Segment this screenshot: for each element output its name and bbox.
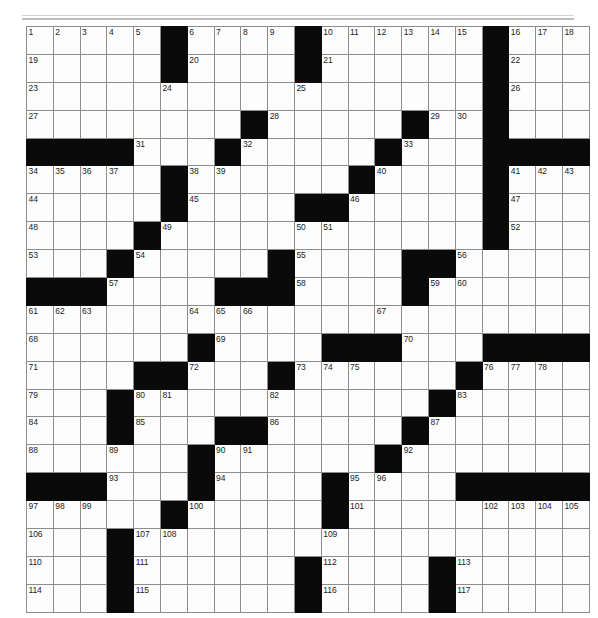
crossword-cell[interactable] [536,584,563,612]
crossword-cell[interactable] [294,445,321,473]
crossword-cell[interactable] [241,82,268,110]
crossword-cell[interactable] [53,110,80,138]
crossword-cell[interactable] [348,250,375,278]
crossword-cell[interactable] [160,138,187,166]
crossword-cell[interactable]: 76 [482,361,509,389]
crossword-cell[interactable] [80,529,107,557]
crossword-cell[interactable] [562,529,589,557]
crossword-cell[interactable]: 106 [27,529,54,557]
crossword-cell[interactable] [321,389,348,417]
crossword-cell[interactable] [482,529,509,557]
crossword-cell[interactable] [402,361,429,389]
crossword-cell[interactable] [536,529,563,557]
crossword-cell[interactable]: 53 [27,250,54,278]
crossword-cell[interactable] [160,110,187,138]
crossword-cell[interactable] [187,138,214,166]
crossword-cell[interactable] [536,250,563,278]
crossword-cell[interactable]: 22 [509,54,536,82]
crossword-cell[interactable] [562,389,589,417]
crossword-cell[interactable] [53,222,80,250]
crossword-cell[interactable]: 103 [509,501,536,529]
crossword-cell[interactable]: 61 [27,305,54,333]
crossword-cell[interactable] [187,584,214,612]
crossword-cell[interactable] [53,445,80,473]
crossword-cell[interactable] [402,222,429,250]
crossword-cell[interactable] [455,54,482,82]
crossword-cell[interactable] [53,584,80,612]
crossword-cell[interactable] [134,501,161,529]
crossword-cell[interactable] [241,556,268,584]
crossword-cell[interactable]: 23 [27,82,54,110]
crossword-cell[interactable] [187,529,214,557]
crossword-cell[interactable]: 60 [455,278,482,306]
crossword-cell[interactable]: 73 [294,361,321,389]
crossword-cell[interactable]: 31 [134,138,161,166]
crossword-cell[interactable] [455,305,482,333]
crossword-cell[interactable] [214,110,241,138]
crossword-cell[interactable] [536,82,563,110]
crossword-cell[interactable] [53,54,80,82]
crossword-cell[interactable] [134,305,161,333]
crossword-cell[interactable] [80,194,107,222]
crossword-cell[interactable] [294,473,321,501]
crossword-cell[interactable] [321,305,348,333]
crossword-cell[interactable]: 4 [107,27,134,55]
crossword-cell[interactable]: 70 [402,333,429,361]
crossword-cell[interactable]: 15 [455,27,482,55]
crossword-cell[interactable] [348,222,375,250]
crossword-cell[interactable] [107,305,134,333]
crossword-cell[interactable] [348,278,375,306]
crossword-cell[interactable] [187,250,214,278]
crossword-cell[interactable]: 11 [348,27,375,55]
crossword-cell[interactable] [402,82,429,110]
crossword-cell[interactable] [482,278,509,306]
crossword-cell[interactable] [80,333,107,361]
crossword-cell[interactable] [375,584,402,612]
crossword-cell[interactable] [134,54,161,82]
crossword-cell[interactable] [482,389,509,417]
crossword-cell[interactable] [402,584,429,612]
crossword-cell[interactable]: 78 [536,361,563,389]
crossword-cell[interactable]: 18 [562,27,589,55]
crossword-cell[interactable] [241,54,268,82]
crossword-cell[interactable] [428,138,455,166]
crossword-cell[interactable]: 6 [187,27,214,55]
crossword-cell[interactable]: 57 [107,278,134,306]
crossword-cell[interactable]: 113 [455,556,482,584]
crossword-cell[interactable]: 71 [27,361,54,389]
crossword-cell[interactable] [509,389,536,417]
crossword-cell[interactable] [428,82,455,110]
crossword-cell[interactable] [294,110,321,138]
crossword-cell[interactable] [107,194,134,222]
crossword-cell[interactable]: 69 [214,333,241,361]
crossword-cell[interactable] [268,529,295,557]
crossword-cell[interactable] [562,250,589,278]
crossword-cell[interactable] [160,278,187,306]
crossword-cell[interactable] [321,445,348,473]
crossword-cell[interactable]: 105 [562,501,589,529]
crossword-cell[interactable]: 56 [455,250,482,278]
crossword-cell[interactable]: 25 [294,82,321,110]
crossword-cell[interactable] [455,501,482,529]
crossword-cell[interactable]: 34 [27,166,54,194]
crossword-cell[interactable] [509,278,536,306]
crossword-cell[interactable]: 32 [241,138,268,166]
crossword-cell[interactable] [482,584,509,612]
crossword-cell[interactable]: 99 [80,501,107,529]
crossword-cell[interactable]: 14 [428,27,455,55]
crossword-cell[interactable] [536,445,563,473]
crossword-cell[interactable]: 109 [321,529,348,557]
crossword-cell[interactable] [428,194,455,222]
crossword-cell[interactable] [562,361,589,389]
crossword-cell[interactable] [375,82,402,110]
crossword-cell[interactable] [241,250,268,278]
crossword-cell[interactable] [241,501,268,529]
crossword-cell[interactable] [134,194,161,222]
crossword-cell[interactable]: 66 [241,305,268,333]
crossword-cell[interactable]: 95 [348,473,375,501]
crossword-cell[interactable] [348,417,375,445]
crossword-cell[interactable] [53,82,80,110]
crossword-cell[interactable] [107,361,134,389]
crossword-cell[interactable] [562,556,589,584]
crossword-cell[interactable]: 63 [80,305,107,333]
